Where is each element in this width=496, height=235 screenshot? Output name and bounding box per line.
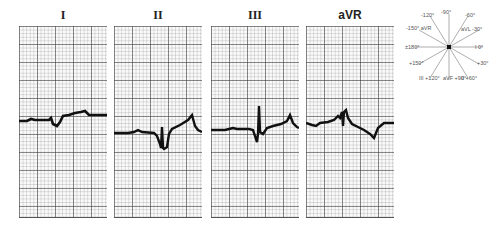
svg-text:-150° aVR: -150° aVR: [406, 25, 431, 31]
svg-text:±180°: ±180°: [405, 44, 419, 50]
lead-title-avr: aVR: [306, 8, 394, 22]
ecg-trace-avr: [306, 26, 394, 217]
lead-title-i: I: [19, 8, 107, 23]
svg-text:-120°: -120°: [421, 12, 434, 18]
ecg-strip-lead-ii: [114, 26, 202, 218]
lead-title-iii: III: [211, 8, 299, 23]
ecg-trace-i: [19, 26, 107, 217]
svg-text:-90°: -90°: [441, 9, 451, 15]
svg-text:I 0°: I 0°: [475, 44, 483, 50]
svg-text:aVL -30°: aVL -30°: [461, 26, 482, 32]
ecg-trace-ii: [114, 26, 202, 217]
ecg-trace-iii: [211, 26, 299, 217]
ecg-strip-lead-i: [19, 26, 107, 218]
ecg-strip-lead-iii: [211, 26, 299, 218]
svg-text:II +60°: II +60°: [461, 75, 477, 81]
svg-text:III +120°: III +120°: [419, 75, 440, 81]
hexaxial-reference-diagram: -90° -120° -60° -150° aVR aVL -30° ±180°…: [405, 8, 493, 90]
svg-text:+30°: +30°: [477, 60, 489, 66]
lead-title-ii: II: [114, 8, 202, 23]
ecg-strip-lead-avr: [306, 26, 394, 218]
svg-text:+150°: +150°: [409, 60, 424, 66]
svg-text:-60°: -60°: [465, 12, 475, 18]
